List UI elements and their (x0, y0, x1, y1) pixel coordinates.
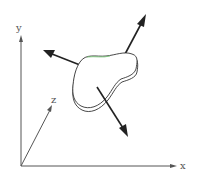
x-axis: x (21, 160, 186, 171)
y-axis-arrowhead-icon (19, 35, 23, 42)
y-axis: y (15, 22, 23, 166)
diagram-canvas: y x z (0, 0, 199, 178)
x-axis-arrowhead-icon (170, 164, 177, 168)
lower-right-vector (97, 87, 128, 137)
y-axis-label: y (15, 22, 22, 33)
left-vector (43, 50, 80, 65)
upper-right-vector-arrowhead-icon (137, 14, 146, 27)
z-axis-label: z (51, 94, 56, 105)
z-axis-arrowhead-icon (47, 105, 52, 112)
upper-right-vector (124, 14, 146, 56)
x-axis-label: x (180, 160, 186, 171)
z-axis: z (21, 94, 56, 166)
lower-right-vector-arrowhead-icon (119, 124, 128, 137)
